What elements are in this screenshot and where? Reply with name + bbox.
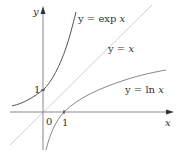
y-axis-label: y — [32, 6, 39, 17]
x-tick-label-1: 1 — [62, 117, 68, 128]
x-axis-arrow-icon — [166, 110, 174, 115]
x-axis-label: x — [165, 117, 171, 128]
chart: y x 0 1 1 y = exp x y = x y = ln x — [0, 0, 184, 162]
exp-curve-label: y = exp x — [77, 13, 126, 24]
ln-curve-label: y = ln x — [124, 84, 164, 95]
identity-line — [10, 5, 152, 145]
identity-line-label: y = x — [107, 43, 134, 54]
y-tick-label-1: 1 — [34, 84, 40, 95]
exp-curve — [12, 12, 76, 106]
y-axis-arrow-icon — [41, 6, 46, 14]
origin-label: 0 — [46, 116, 52, 127]
